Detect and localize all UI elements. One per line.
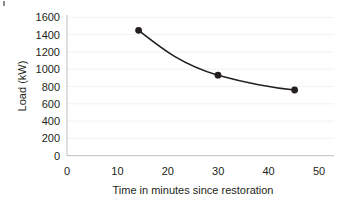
data-point	[215, 72, 222, 79]
y-tick-label: 200	[42, 132, 60, 144]
y-tick-label: 0	[54, 150, 60, 162]
x-tick-label: 50	[313, 165, 325, 177]
y-tick-label: 1000	[36, 63, 60, 75]
x-tick-label: 30	[212, 165, 224, 177]
data-point	[135, 27, 142, 34]
gridlines	[67, 17, 334, 138]
y-tick-label: 1200	[36, 46, 60, 58]
y-axis-title: Load (kW)	[16, 61, 28, 112]
data-line-series-load	[139, 30, 295, 90]
x-axis-title: Time in minutes since restoration	[113, 184, 274, 196]
y-tick-label: 600	[42, 98, 60, 110]
x-tick-labels: 0 10 20 30 40 50	[64, 165, 325, 177]
x-tick-label: 0	[64, 165, 70, 177]
y-tick-labels: 1600 1400 1200 1000 800 600 400 200 0	[36, 11, 60, 161]
x-tick-label: 40	[262, 165, 274, 177]
data-point	[291, 87, 298, 94]
chart-container: 1600 1400 1200 1000 800 600 400 200 0 0 …	[0, 0, 343, 203]
y-tick-label: 1600	[36, 11, 60, 23]
data-points	[135, 27, 298, 94]
y-tick-label: 800	[42, 81, 60, 93]
x-tick-label: 20	[162, 165, 174, 177]
line-chart: 1600 1400 1200 1000 800 600 400 200 0 0 …	[0, 0, 343, 203]
x-tick-label: 10	[111, 165, 123, 177]
y-tick-label: 400	[42, 115, 60, 127]
y-tick-label: 1400	[36, 29, 60, 41]
